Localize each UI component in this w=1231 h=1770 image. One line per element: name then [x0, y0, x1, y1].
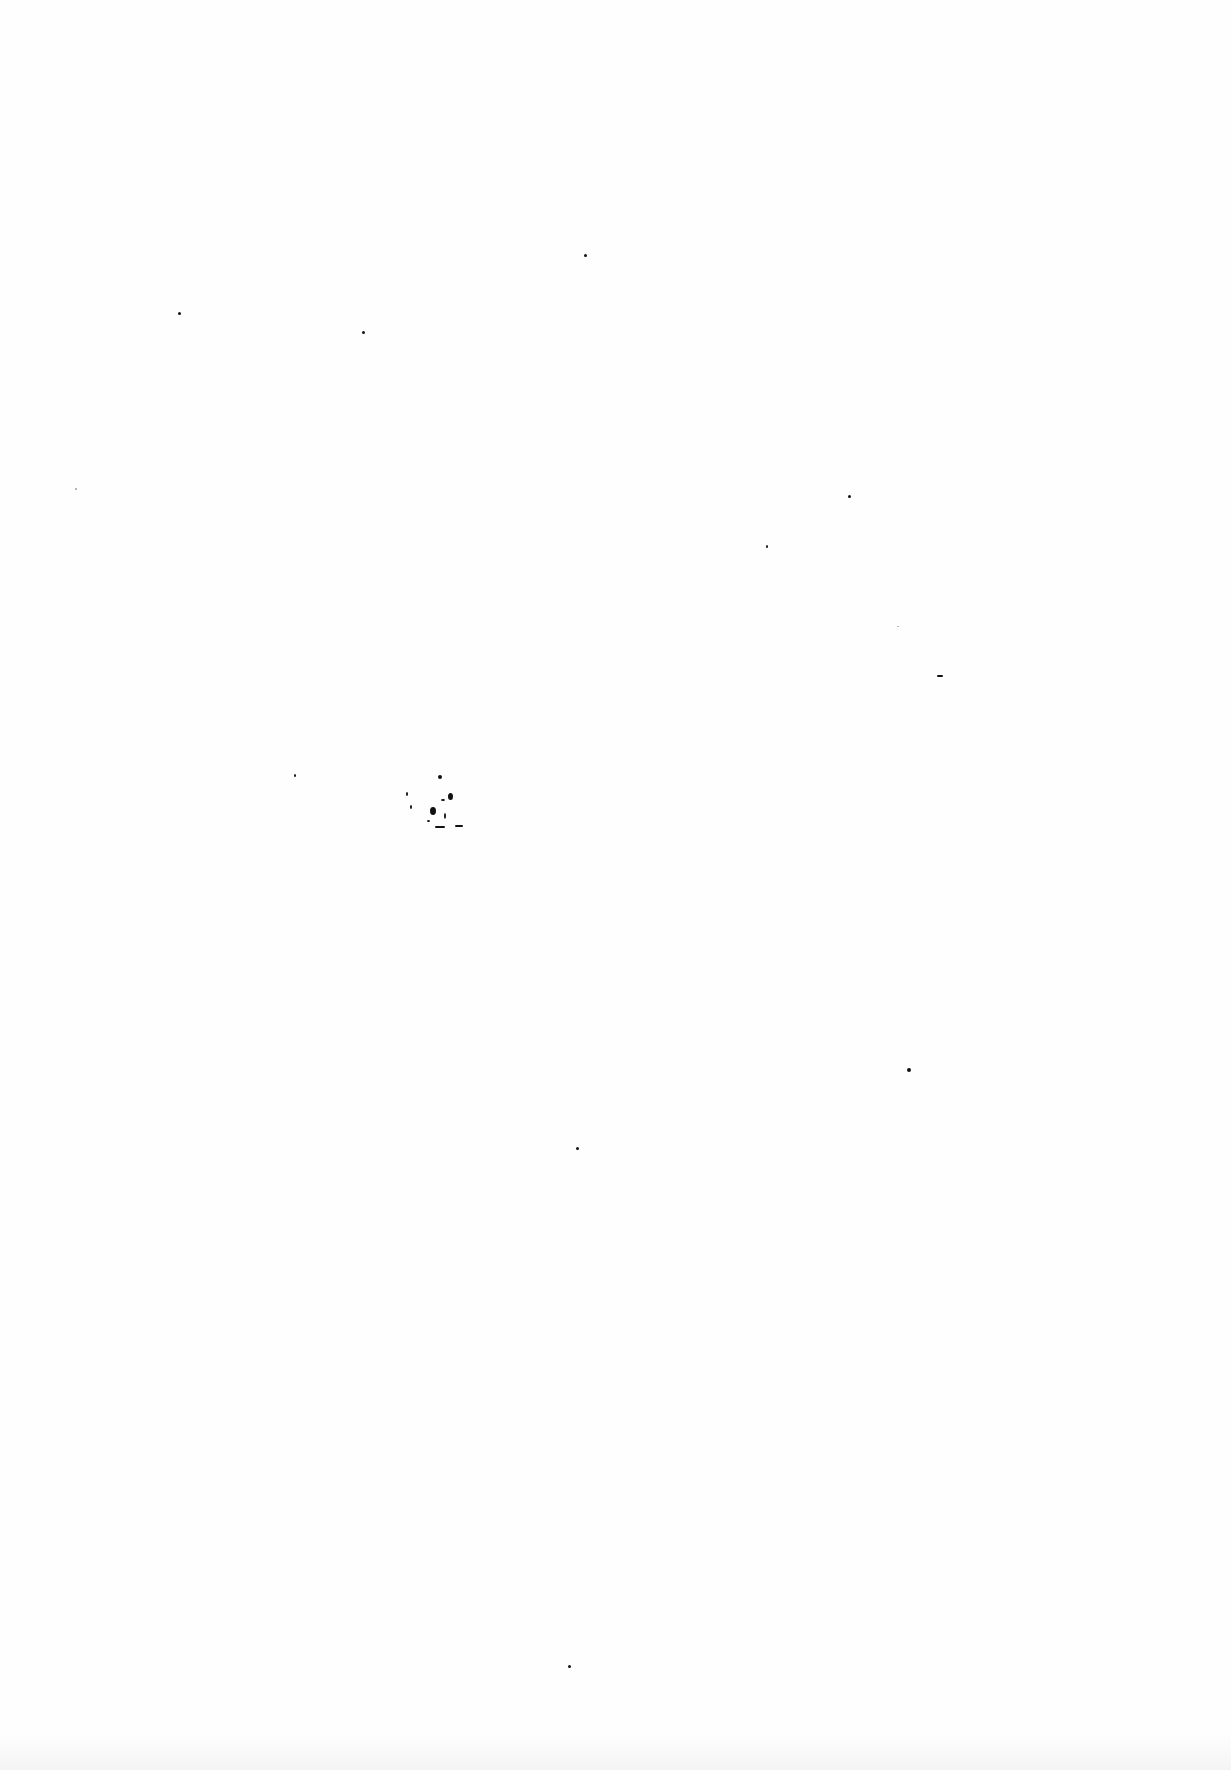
scan-speck [576, 1147, 579, 1150]
scan-speck [410, 805, 412, 809]
scan-speck [294, 774, 296, 777]
scan-speck [848, 495, 851, 498]
scan-speck [766, 545, 768, 548]
scan-speck [455, 825, 463, 827]
scan-speck [448, 793, 453, 800]
scan-speck [430, 807, 436, 815]
blank-scanned-page [0, 0, 1231, 1770]
scan-edge-noise [0, 1734, 1231, 1770]
scan-speck [427, 820, 430, 822]
scan-speck [897, 626, 899, 627]
scan-speck [178, 312, 181, 315]
scan-speck [444, 813, 446, 819]
scan-speck [438, 775, 442, 779]
scan-speck [75, 488, 77, 490]
scan-speck [568, 1665, 571, 1668]
scan-speck [584, 254, 587, 257]
scan-speck [406, 792, 408, 796]
scan-speck-cluster [405, 770, 475, 840]
scan-speck [907, 1068, 911, 1072]
scan-speck [362, 331, 365, 334]
scan-speck [441, 799, 445, 801]
scan-speck [937, 675, 943, 677]
scan-speck [435, 826, 445, 828]
